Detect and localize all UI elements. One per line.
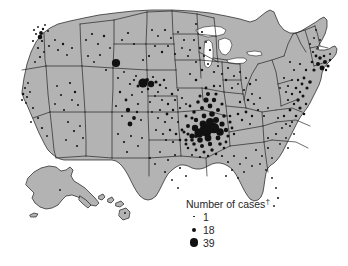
legend-title: Number of cases†	[186, 198, 306, 210]
legend-title-text: Number of cases	[186, 198, 265, 210]
legend-item-18: 18	[186, 223, 306, 236]
land-layer	[22, 10, 337, 220]
legend-footnote-marker: †	[265, 197, 269, 206]
hawaii-oahu	[108, 197, 114, 203]
lake-ontario	[247, 51, 262, 56]
medium-dot-icon	[186, 228, 202, 232]
small-dot-icon	[186, 216, 202, 218]
map-legend: Number of cases† 1 18 39	[186, 198, 306, 249]
us-case-distribution-map: Number of cases† 1 18 39	[0, 0, 348, 266]
hawaii-maui	[116, 201, 124, 207]
legend-item-39: 39	[186, 236, 306, 249]
hawaii-inset	[99, 194, 130, 220]
legend-value-1: 1	[202, 211, 209, 223]
hawaii-bigisland	[119, 208, 130, 220]
large-dot-icon	[186, 238, 202, 247]
hawaii-kauai	[99, 194, 105, 200]
aleutian-chain	[30, 213, 38, 217]
legend-value-18: 18	[202, 224, 215, 236]
legend-value-39: 39	[202, 237, 215, 249]
legend-item-1: 1	[186, 210, 306, 223]
